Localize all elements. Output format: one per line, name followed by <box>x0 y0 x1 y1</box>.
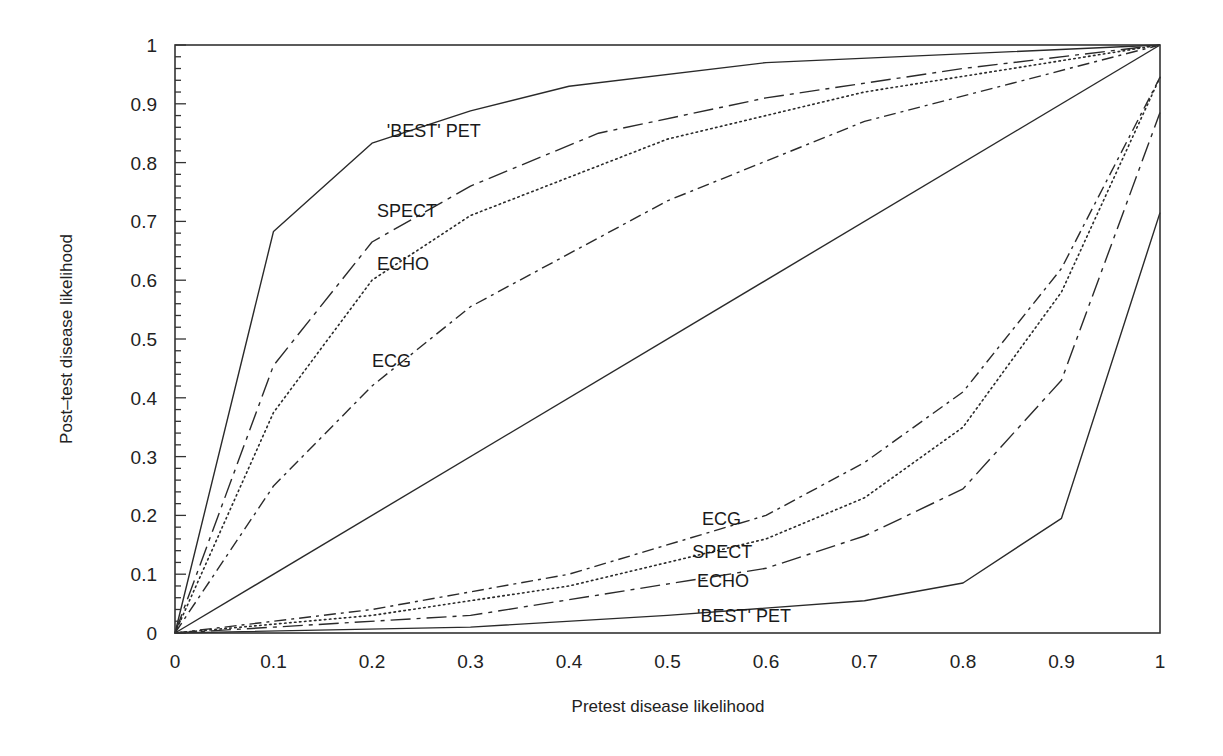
curve-label: ECHO <box>377 254 429 274</box>
y-tick-label: 0.4 <box>131 388 158 409</box>
x-tick-label: 0.1 <box>260 651 286 672</box>
x-tick-label: 0.9 <box>1048 651 1074 672</box>
y-axis-tick-labels: 00.10.20.30.40.50.60.70.80.91 <box>131 35 158 644</box>
x-tick-label: 0.7 <box>851 651 877 672</box>
y-tick-label: 1 <box>146 35 157 56</box>
x-tick-label: 1 <box>1155 651 1166 672</box>
y-tick-label: 0.9 <box>131 94 157 115</box>
curve-label: SPECT <box>692 542 752 562</box>
curve-echo-negative-test <box>175 113 1160 633</box>
y-tick-label: 0.6 <box>131 270 157 291</box>
curve-labels: 'BEST' PETSPECTECHOECGECGSPECTECHO'BEST'… <box>372 121 791 626</box>
y-tick-label: 0.5 <box>131 329 157 350</box>
x-tick-label: 0.8 <box>950 651 976 672</box>
x-tick-label: 0.5 <box>654 651 680 672</box>
y-tick-label: 0.2 <box>131 505 157 526</box>
curve-label: SPECT <box>377 201 437 221</box>
x-axis-title: Pretest disease likelihood <box>572 697 765 716</box>
x-tick-label: 0.4 <box>556 651 583 672</box>
y-tick-label: 0.1 <box>131 564 157 585</box>
curves-layer <box>175 45 1160 633</box>
y-tick-label: 0.8 <box>131 153 157 174</box>
curve-ecg-negative-test <box>175 77 1160 633</box>
x-tick-label: 0.6 <box>753 651 779 672</box>
curve-spect-negative-test <box>175 77 1160 633</box>
curve-label: ECG <box>702 509 741 529</box>
x-tick-label: 0.3 <box>457 651 483 672</box>
y-axis-ticks <box>175 45 186 633</box>
curve-label: 'BEST' PET <box>387 121 481 141</box>
x-tick-label: 0.2 <box>359 651 385 672</box>
x-axis-tick-labels: 00.10.20.30.40.50.60.70.80.91 <box>170 651 1166 672</box>
x-tick-label: 0 <box>170 651 181 672</box>
likelihood-chart: 00.10.20.30.40.50.60.70.80.91 00.10.20.3… <box>0 0 1223 756</box>
y-tick-label: 0 <box>146 623 157 644</box>
curve-label: ECHO <box>697 571 749 591</box>
y-tick-label: 0.7 <box>131 211 157 232</box>
curve-best-pet-negative-test <box>175 213 1160 633</box>
curve-label: 'BEST' PET <box>697 606 791 626</box>
y-tick-label: 0.3 <box>131 447 157 468</box>
curve-label: ECG <box>372 351 411 371</box>
y-axis-title: Post–test disease likelihood <box>57 234 76 444</box>
